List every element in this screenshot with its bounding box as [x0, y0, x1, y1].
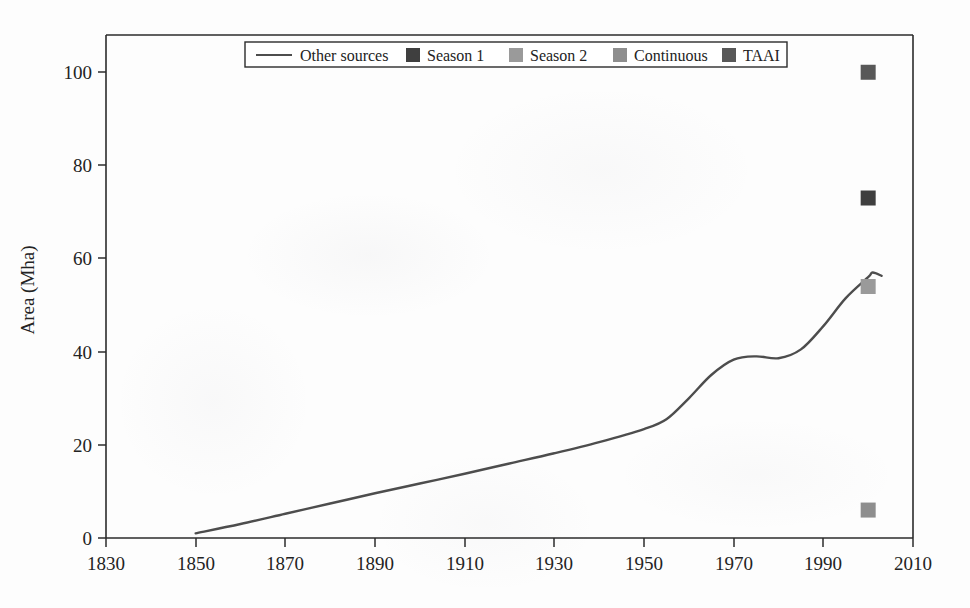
line-chart-plot: 0 20 40 60 80 100 Area (Mha) 1830 1850 1… [0, 0, 970, 608]
x-axis-ticks [106, 538, 913, 547]
x-tick-label-1910: 1910 [446, 553, 484, 574]
scatter-marker-continuous [861, 503, 876, 518]
x-axis-tick-labels: 1830 1850 1870 1890 1910 1930 1950 1970 … [87, 553, 932, 574]
y-tick-label-40: 40 [73, 342, 92, 363]
scatter-marker-group [861, 65, 876, 518]
scatter-marker-taai [861, 65, 876, 80]
series-line-other-sources [196, 273, 882, 534]
legend-label-taai: TAAI [743, 47, 780, 64]
x-tick-label-1970: 1970 [715, 553, 753, 574]
y-axis-title: Area (Mha) [17, 245, 39, 334]
x-tick-label-1950: 1950 [625, 553, 663, 574]
x-tick-label-1990: 1990 [804, 553, 842, 574]
scatter-marker-season-1 [861, 191, 876, 206]
x-tick-label-1850: 1850 [177, 553, 215, 574]
x-tick-label-2010: 2010 [894, 553, 932, 574]
chart-figure: 0 20 40 60 80 100 Area (Mha) 1830 1850 1… [0, 0, 970, 608]
y-tick-label-100: 100 [64, 62, 93, 83]
legend-label-season-2: Season 2 [530, 47, 587, 64]
y-tick-label-0: 0 [83, 528, 93, 549]
y-axis-tick-labels: 0 20 40 60 80 100 [64, 62, 93, 549]
y-tick-label-20: 20 [73, 435, 92, 456]
scatter-marker-season-2 [861, 279, 876, 294]
chart-legend: Other sources Season 1 Season 2 Continuo… [245, 42, 787, 67]
legend-square-swatch-taai [722, 48, 736, 62]
x-tick-label-1930: 1930 [535, 553, 573, 574]
y-axis-ticks [98, 72, 106, 538]
legend-label-season-1: Season 1 [427, 47, 484, 64]
legend-square-swatch-season-2 [509, 48, 523, 62]
x-tick-label-1870: 1870 [266, 553, 304, 574]
legend-square-swatch-season-1 [406, 48, 420, 62]
legend-square-swatch-continuous [613, 48, 627, 62]
y-tick-label-80: 80 [73, 155, 92, 176]
legend-label-other-sources: Other sources [300, 47, 388, 64]
x-tick-label-1830: 1830 [87, 553, 125, 574]
legend-label-continuous: Continuous [634, 47, 708, 64]
x-tick-label-1890: 1890 [356, 553, 394, 574]
y-tick-label-60: 60 [73, 248, 92, 269]
